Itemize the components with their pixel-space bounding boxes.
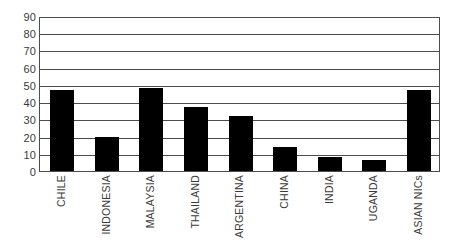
y-tick-label: 0 bbox=[2, 167, 36, 178]
bars-layer bbox=[40, 18, 439, 171]
bar bbox=[318, 157, 342, 171]
bar-chart: 0102030405060708090 CHILEINDONESIAMALAYS… bbox=[0, 0, 454, 248]
x-tick: THAILAND bbox=[173, 173, 218, 248]
bar bbox=[95, 137, 119, 171]
x-tick: CHINA bbox=[262, 173, 307, 248]
y-tick-label: 10 bbox=[2, 149, 36, 160]
bar bbox=[273, 147, 297, 171]
bar bbox=[229, 116, 253, 171]
x-tick: ASIAN NICs bbox=[395, 173, 440, 248]
x-tick-label: ASIAN NICs bbox=[412, 175, 423, 235]
x-tick-label: INDIA bbox=[323, 175, 334, 204]
x-tick-label: ARGENTINA bbox=[234, 175, 245, 238]
bar bbox=[407, 90, 431, 171]
x-tick-label: CHILE bbox=[56, 175, 67, 207]
y-axis: 0102030405060708090 bbox=[0, 0, 36, 248]
y-tick-label: 30 bbox=[2, 115, 36, 126]
x-tick-label: INDONESIA bbox=[100, 175, 111, 235]
x-tick: ARGENTINA bbox=[217, 173, 262, 248]
y-tick-label: 40 bbox=[2, 98, 36, 109]
x-tick-label: THAILAND bbox=[189, 175, 200, 229]
plot-area bbox=[39, 17, 440, 172]
bar bbox=[50, 90, 74, 171]
x-tick-label: UGANDA bbox=[368, 175, 379, 221]
x-tick: INDIA bbox=[306, 173, 351, 248]
x-tick: CHILE bbox=[39, 173, 84, 248]
x-tick: UGANDA bbox=[351, 173, 396, 248]
y-tick-label: 70 bbox=[2, 46, 36, 57]
x-tick-label: CHINA bbox=[279, 175, 290, 209]
y-tick-label: 90 bbox=[2, 12, 36, 23]
bar bbox=[362, 160, 386, 171]
x-axis: CHILEINDONESIAMALAYSIATHAILANDARGENTINAC… bbox=[39, 173, 440, 248]
bar bbox=[139, 88, 163, 171]
x-tick-label: MALAYSIA bbox=[145, 175, 156, 228]
bar bbox=[184, 107, 208, 171]
y-tick-label: 80 bbox=[2, 29, 36, 40]
y-tick-label: 20 bbox=[2, 132, 36, 143]
y-tick-label: 50 bbox=[2, 80, 36, 91]
x-tick: MALAYSIA bbox=[128, 173, 173, 248]
x-tick: INDONESIA bbox=[84, 173, 129, 248]
y-tick-label: 60 bbox=[2, 63, 36, 74]
